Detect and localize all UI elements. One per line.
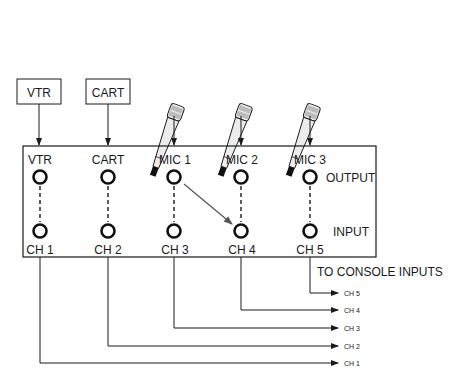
patch-bay-top-labels: VTR CART MIC 1 MIC 2 MIC 3 bbox=[28, 153, 326, 167]
console-channel-ch1: CH 1 bbox=[344, 360, 360, 367]
column-label-mic3: MIC 3 bbox=[294, 153, 326, 167]
patch-bay-diagram: VTR CART VTR CART MIC 1 MIC 2 MIC 3 bbox=[0, 0, 458, 382]
source-box-vtr: VTR bbox=[17, 79, 61, 104]
column-label-ch4: CH 4 bbox=[228, 243, 256, 257]
console-channel-ch5: CH 5 bbox=[344, 290, 360, 297]
console-channel-ch4: CH 4 bbox=[344, 307, 360, 314]
jack-output-mic2[interactable] bbox=[235, 171, 248, 184]
console-channel-ch3: CH 3 bbox=[344, 325, 360, 332]
console-channel-labels: CH 5 CH 4 CH 3 CH 2 CH 1 bbox=[344, 290, 360, 367]
row-label-input: INPUT bbox=[333, 225, 370, 239]
source-box-cart: CART bbox=[86, 79, 130, 104]
jack-output-mic1[interactable] bbox=[168, 171, 181, 184]
jack-output-vtr[interactable] bbox=[34, 171, 47, 184]
column-label-ch3: CH 3 bbox=[161, 243, 189, 257]
column-label-cart: CART bbox=[92, 153, 125, 167]
normal-links bbox=[40, 186, 310, 222]
jack-output-cart[interactable] bbox=[102, 171, 115, 184]
jack-input-ch2[interactable] bbox=[102, 225, 115, 238]
column-label-vtr: VTR bbox=[28, 153, 52, 167]
column-label-ch1: CH 1 bbox=[26, 243, 54, 257]
column-label-mic1: MIC 1 bbox=[159, 153, 191, 167]
output-jacks bbox=[34, 171, 317, 184]
input-jacks bbox=[34, 225, 317, 238]
column-label-ch5: CH 5 bbox=[296, 243, 324, 257]
column-label-mic2: MIC 2 bbox=[226, 153, 258, 167]
jack-input-ch1[interactable] bbox=[34, 225, 47, 238]
source-label-vtr: VTR bbox=[27, 86, 51, 100]
jack-input-ch3[interactable] bbox=[168, 225, 181, 238]
patch-cord-mic1-to-ch4 bbox=[184, 184, 232, 224]
source-label-cart: CART bbox=[92, 86, 125, 100]
console-routing-lines bbox=[40, 257, 338, 363]
jack-input-ch5[interactable] bbox=[304, 225, 317, 238]
patch-bay-bottom-labels: CH 1 CH 2 CH 3 CH 4 CH 5 bbox=[26, 243, 324, 257]
jack-input-ch4[interactable] bbox=[235, 225, 248, 238]
column-label-ch2: CH 2 bbox=[94, 243, 122, 257]
console-channel-ch2: CH 2 bbox=[344, 343, 360, 350]
row-label-output: OUTPUT bbox=[326, 171, 376, 185]
console-inputs-heading: TO CONSOLE INPUTS bbox=[317, 265, 443, 279]
jack-output-mic3[interactable] bbox=[304, 171, 317, 184]
